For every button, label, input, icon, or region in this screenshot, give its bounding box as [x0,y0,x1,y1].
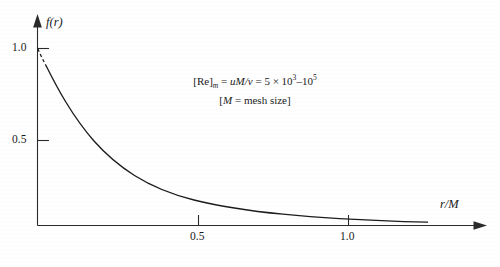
y-axis-label: f(r) [46,16,63,29]
reynolds-equals: = [218,75,230,87]
annotation-line-reynolds: [Re]m = uM/ν = 5 × 103–105 [150,72,360,92]
reynolds-value-lead: = 5 × 10 [253,75,293,87]
reynolds-exponent-high: 5 [313,73,317,82]
reynolds-range-dash: –10 [296,75,313,87]
y-tick-label-0: 0.5 [12,134,27,146]
figure-container: 1.0 0.5 0.5 1.0 f(r) r/M [Re]m = uM/ν = … [0,0,500,267]
x-tick-label-0: 0.5 [190,231,205,243]
reynolds-definition: uM/ν [230,75,253,87]
reynolds-bracket: [Re] [193,75,213,87]
annotation-line-mesh: [M = mesh size] [150,92,360,109]
x-tick-label-1: 1.0 [340,231,355,243]
y-axis-arrowhead [33,14,42,28]
mesh-description: = mesh size] [232,94,290,106]
x-axis-arrowhead [474,221,488,230]
mesh-symbol: M [223,94,232,106]
annotation-block: [Re]m = uM/ν = 5 × 103–105 [M = mesh siz… [150,72,360,109]
plot-canvas [0,0,500,267]
curve-dashed-lead-in [38,49,47,67]
x-axis-label: r/M [440,198,459,211]
y-tick-label-1: 1.0 [12,42,27,54]
